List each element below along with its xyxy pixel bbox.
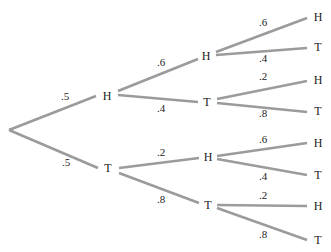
outcome-heads: H	[314, 10, 323, 24]
outcome-tails: T	[104, 161, 112, 175]
branch-probability: .5	[62, 156, 71, 168]
branch-probability: .4	[259, 52, 268, 64]
tree-branch	[9, 130, 98, 168]
branch-probability: .2	[157, 146, 165, 158]
probability-tree-diagram: .5.5.6.4.2.8.6.4.2.8.6.4.2.8 HTHTHTHTHTH…	[0, 0, 331, 252]
outcome-tails: T	[204, 198, 212, 212]
tree-branch	[118, 95, 198, 102]
outcome-heads: H	[103, 89, 112, 103]
outcome-tails: T	[314, 40, 322, 54]
outcome-tails: T	[314, 104, 322, 118]
branch-probability: .6	[259, 133, 268, 145]
tree-branch	[119, 158, 199, 168]
outcome-heads: H	[314, 136, 323, 150]
tree-branch	[9, 96, 96, 130]
branch-probability: .8	[157, 193, 166, 205]
outcome-heads: H	[204, 150, 213, 164]
branch-probability: .2	[259, 70, 267, 82]
outcome-heads: H	[314, 73, 323, 87]
outcome-nodes: HTHTHTHTHTHTHT	[103, 10, 323, 247]
branch-probability: .4	[259, 170, 268, 182]
branch-probability: .8	[259, 228, 268, 240]
outcome-heads: H	[314, 199, 323, 213]
tree-branch	[217, 205, 307, 206]
branch-probability: .2	[259, 189, 267, 201]
tree-branch	[217, 81, 307, 99]
branch-probability: .8	[259, 107, 268, 119]
branch-probability: .6	[259, 16, 268, 28]
outcome-tails: T	[203, 95, 211, 109]
outcome-heads: H	[202, 49, 211, 63]
branch-probability: .6	[157, 56, 166, 68]
outcome-tails: T	[314, 168, 322, 182]
branch-probability: .4	[157, 102, 166, 114]
outcome-tails: T	[314, 233, 322, 247]
branch-probability: .5	[61, 90, 70, 102]
